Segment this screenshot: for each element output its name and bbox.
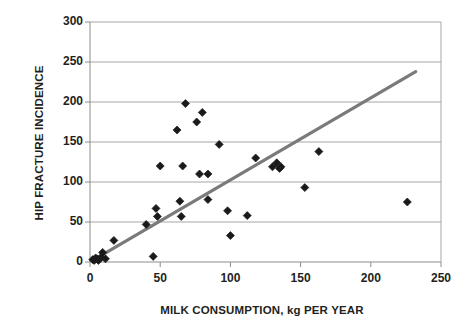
data-point <box>110 236 118 244</box>
data-point <box>252 154 260 162</box>
y-tick-label: 50 <box>49 214 83 228</box>
data-point <box>243 212 251 220</box>
data-point <box>226 232 234 240</box>
y-tick-label: 100 <box>49 174 83 188</box>
y-tick-label: 300 <box>49 14 83 28</box>
data-point <box>156 162 164 170</box>
scatter-chart: HIP FRACTURE INCIDENCE MILK CONSUMPTION,… <box>0 0 472 336</box>
data-point <box>301 184 309 192</box>
data-point <box>204 196 212 204</box>
data-point <box>224 207 232 215</box>
y-tick-label: 250 <box>49 54 83 68</box>
x-tick-label: 200 <box>351 271 391 285</box>
x-tick-label: 150 <box>281 271 321 285</box>
data-point <box>315 148 323 156</box>
plot-area <box>0 0 472 336</box>
data-point <box>181 100 189 108</box>
x-tick-label: 0 <box>70 271 110 285</box>
data-point <box>204 170 212 178</box>
data-point <box>179 162 187 170</box>
trendline <box>93 72 416 261</box>
x-tick-label: 250 <box>421 271 461 285</box>
data-point <box>176 197 184 205</box>
y-tick-label: 150 <box>49 134 83 148</box>
data-point <box>193 118 201 126</box>
data-point <box>198 108 206 116</box>
y-tick-label: 200 <box>49 94 83 108</box>
data-point <box>196 170 204 178</box>
x-tick-label: 100 <box>210 271 250 285</box>
data-point <box>173 126 181 134</box>
data-point <box>152 204 160 212</box>
data-point <box>149 252 157 260</box>
data-point <box>403 198 411 206</box>
x-tick-label: 50 <box>140 271 180 285</box>
y-tick-label: 0 <box>49 254 83 268</box>
data-point <box>177 212 185 220</box>
